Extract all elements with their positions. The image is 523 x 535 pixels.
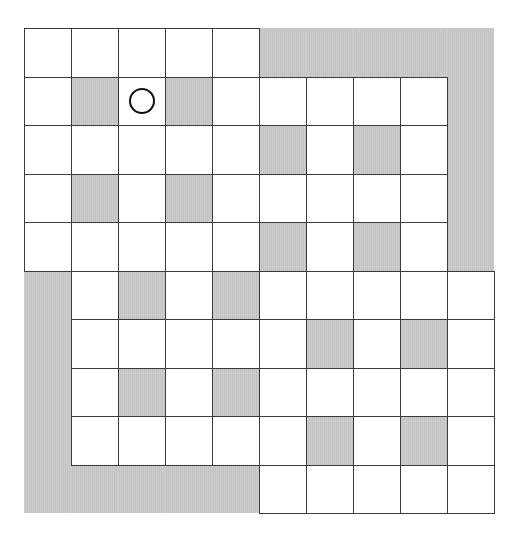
shaded-cell[interactable] bbox=[212, 368, 260, 417]
shaded-cell[interactable] bbox=[306, 319, 354, 369]
board-cell[interactable] bbox=[306, 77, 354, 126]
border-region bbox=[24, 465, 71, 513]
board-cell[interactable] bbox=[165, 319, 213, 369]
board-cell[interactable] bbox=[353, 271, 401, 320]
board-cell[interactable] bbox=[400, 174, 448, 223]
board-cell[interactable] bbox=[400, 222, 448, 272]
board-cell[interactable] bbox=[24, 222, 72, 272]
board-cell[interactable] bbox=[71, 319, 119, 369]
board-cell[interactable] bbox=[118, 28, 166, 78]
board-cell[interactable] bbox=[212, 416, 260, 466]
board-cell[interactable] bbox=[71, 125, 119, 175]
board-cell[interactable] bbox=[165, 271, 213, 320]
board-cell[interactable] bbox=[212, 28, 260, 78]
board-cell[interactable] bbox=[118, 125, 166, 175]
board-cell[interactable] bbox=[212, 77, 260, 126]
board-cell[interactable] bbox=[165, 125, 213, 175]
border-region bbox=[447, 28, 494, 77]
board-cell[interactable] bbox=[400, 77, 448, 126]
shaded-cell[interactable] bbox=[165, 77, 213, 126]
board-cell[interactable] bbox=[71, 222, 119, 272]
shaded-cell[interactable] bbox=[259, 125, 307, 175]
border-region bbox=[259, 28, 306, 77]
board-cell[interactable] bbox=[212, 125, 260, 175]
border-region bbox=[71, 465, 118, 513]
board-cell[interactable] bbox=[353, 465, 401, 514]
border-region bbox=[447, 77, 494, 125]
border-region bbox=[118, 465, 165, 513]
board-cell[interactable] bbox=[400, 271, 448, 320]
board-cell[interactable] bbox=[447, 271, 495, 320]
board-cell[interactable] bbox=[259, 77, 307, 126]
circle-marker-icon bbox=[129, 88, 155, 114]
border-region bbox=[447, 125, 494, 174]
board-cell[interactable] bbox=[259, 271, 307, 320]
board-cell[interactable] bbox=[353, 319, 401, 369]
shaded-cell[interactable] bbox=[165, 174, 213, 223]
border-region bbox=[24, 368, 71, 416]
board-cell[interactable] bbox=[165, 222, 213, 272]
board-cell[interactable] bbox=[306, 222, 354, 272]
border-region bbox=[165, 465, 212, 513]
board-cell[interactable] bbox=[306, 271, 354, 320]
board-cell[interactable] bbox=[259, 416, 307, 466]
board-cell[interactable] bbox=[400, 465, 448, 514]
border-region bbox=[24, 319, 71, 368]
board-cell[interactable] bbox=[118, 319, 166, 369]
board-cell[interactable] bbox=[353, 368, 401, 417]
board-cell[interactable] bbox=[118, 416, 166, 466]
board-cell[interactable] bbox=[212, 222, 260, 272]
board-cell[interactable] bbox=[24, 28, 72, 78]
board-cell[interactable] bbox=[306, 368, 354, 417]
board-cell[interactable] bbox=[259, 174, 307, 223]
board-cell[interactable] bbox=[447, 368, 495, 417]
board-cell[interactable] bbox=[24, 174, 72, 223]
shaded-cell[interactable] bbox=[400, 319, 448, 369]
board-cell[interactable] bbox=[306, 174, 354, 223]
board-cell[interactable] bbox=[306, 465, 354, 514]
shaded-cell[interactable] bbox=[259, 222, 307, 272]
board-cell[interactable] bbox=[118, 222, 166, 272]
board-cell[interactable] bbox=[306, 125, 354, 175]
board-cell[interactable] bbox=[259, 319, 307, 369]
board-cell[interactable] bbox=[71, 271, 119, 320]
board-cell[interactable] bbox=[71, 416, 119, 466]
board-cell[interactable] bbox=[353, 416, 401, 466]
board-cell[interactable] bbox=[447, 465, 495, 514]
border-region bbox=[306, 28, 353, 77]
shaded-cell[interactable] bbox=[306, 416, 354, 466]
border-region bbox=[447, 222, 494, 271]
board-cell[interactable] bbox=[447, 319, 495, 369]
board-cell[interactable] bbox=[212, 319, 260, 369]
board-cell[interactable] bbox=[165, 28, 213, 78]
board-cell[interactable] bbox=[212, 174, 260, 223]
shaded-cell[interactable] bbox=[212, 271, 260, 320]
board-cell[interactable] bbox=[24, 125, 72, 175]
border-region bbox=[400, 28, 447, 77]
shaded-cell[interactable] bbox=[71, 174, 119, 223]
board-cell[interactable] bbox=[259, 368, 307, 417]
border-region bbox=[212, 465, 259, 513]
board-cell[interactable] bbox=[24, 77, 72, 126]
board-cell[interactable] bbox=[165, 416, 213, 466]
border-region bbox=[447, 174, 494, 222]
board-cell[interactable] bbox=[165, 368, 213, 417]
board-cell[interactable] bbox=[118, 174, 166, 223]
board-cell[interactable] bbox=[353, 174, 401, 223]
board-cell[interactable] bbox=[259, 465, 307, 514]
shaded-cell[interactable] bbox=[118, 368, 166, 417]
board-cell[interactable] bbox=[400, 125, 448, 175]
board-cell[interactable] bbox=[71, 28, 119, 78]
shaded-cell[interactable] bbox=[400, 416, 448, 466]
board-cell[interactable] bbox=[400, 368, 448, 417]
board-cell[interactable] bbox=[71, 368, 119, 417]
border-region bbox=[24, 416, 71, 465]
board-cell[interactable] bbox=[353, 77, 401, 126]
game-board bbox=[24, 28, 494, 513]
board-cell[interactable] bbox=[447, 416, 495, 466]
shaded-cell[interactable] bbox=[353, 125, 401, 175]
border-region bbox=[353, 28, 400, 77]
shaded-cell[interactable] bbox=[353, 222, 401, 272]
shaded-cell[interactable] bbox=[71, 77, 119, 126]
shaded-cell[interactable] bbox=[118, 271, 166, 320]
